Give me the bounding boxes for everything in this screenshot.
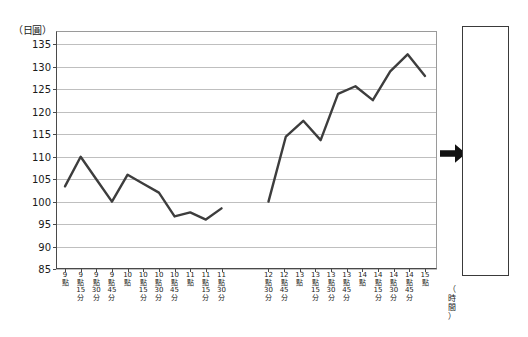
x-tick-label-segment: 分 <box>167 295 183 303</box>
x-tick-label-segment: 分 <box>401 295 417 303</box>
x-tick-label: 12點45分 <box>276 272 292 302</box>
gridline <box>56 269 437 270</box>
x-tick-label-segment <box>417 295 433 303</box>
y-tick-label: 95 <box>38 219 51 230</box>
x-tick-label: 13點45分 <box>339 272 355 302</box>
x-axis-unit-label: （時間） <box>444 285 460 321</box>
x-tick-label: 13點15分 <box>307 272 323 302</box>
x-tick-label: 11點15分 <box>198 272 214 302</box>
chart-figure: （日圓） 859095100105110115120125130135 9點 9… <box>0 0 528 337</box>
line-series-afternoon <box>268 54 425 201</box>
x-axis-unit-segment: ） <box>444 312 460 321</box>
x-tick-label: 10點 <box>120 272 136 302</box>
plot-area: 859095100105110115120125130135 <box>56 31 437 269</box>
x-tick-label: 13點30分 <box>323 272 339 302</box>
x-axis-unit-segment: （ <box>444 285 460 294</box>
x-tick-label-segment: 分 <box>135 295 151 303</box>
x-tick-label: 9點30分 <box>88 272 104 302</box>
x-axis-unit-segment: 間 <box>444 303 460 312</box>
y-tick-label: 110 <box>32 151 51 162</box>
x-tick-label-segment: 分 <box>104 295 120 303</box>
x-tick-label: 14點15分 <box>370 272 386 302</box>
answer-box[interactable] <box>462 26 509 276</box>
x-tick-label: 9點15分 <box>73 272 89 302</box>
x-tick-label-segment: 分 <box>198 295 214 303</box>
x-tick-label: 11點30分 <box>214 272 230 302</box>
y-tick-mark <box>53 269 56 270</box>
x-tick-label-segment: 分 <box>260 295 276 303</box>
x-tick-label: 14點45分 <box>401 272 417 302</box>
y-tick-label: 85 <box>38 264 51 275</box>
x-axis-unit-segment: 時 <box>444 294 460 303</box>
x-tick-label-segment: 分 <box>386 295 402 303</box>
x-tick-label: 10點45分 <box>167 272 183 302</box>
x-tick-label-segment <box>120 295 136 303</box>
y-tick-label: 135 <box>32 39 51 50</box>
x-tick-label-segment <box>292 295 308 303</box>
y-tick-label: 115 <box>32 129 51 140</box>
x-tick-label: 14點30分 <box>386 272 402 302</box>
x-tick-label-segment: 分 <box>307 295 323 303</box>
x-tick-label-segment: 分 <box>214 295 230 303</box>
y-tick-label: 125 <box>32 84 51 95</box>
x-tick-label-segment: 分 <box>323 295 339 303</box>
x-tick-label: 9點45分 <box>104 272 120 302</box>
y-tick-label: 105 <box>32 174 51 185</box>
x-tick-label: 12點30分 <box>260 272 276 302</box>
x-tick-label-segment <box>57 295 73 303</box>
x-tick-label-segment: 分 <box>73 295 89 303</box>
x-tick-label-segment: 分 <box>88 295 104 303</box>
x-tick-label-segment: 分 <box>276 295 292 303</box>
y-axis-unit-label: （日圓） <box>13 22 51 37</box>
x-tick-label: 14點 <box>354 272 370 302</box>
x-tick-label-segment <box>182 295 198 303</box>
x-tick-label: 9點 <box>57 272 73 302</box>
y-tick-label: 120 <box>32 106 51 117</box>
x-tick-label: 11點 <box>182 272 198 302</box>
x-tick-label: 15點 <box>417 272 433 302</box>
x-tick-label-segment: 分 <box>370 295 386 303</box>
x-tick-label: 10點30分 <box>151 272 167 302</box>
x-tick-label: 13點 <box>292 272 308 302</box>
x-tick-label: 10點15分 <box>135 272 151 302</box>
x-tick-label-segment <box>354 295 370 303</box>
line-series-morning <box>65 157 222 220</box>
x-axis-tick-labels: 9點 9點15分9點30分9點45分10點 10點15分10點30分10點45分… <box>56 272 437 332</box>
y-tick-label: 130 <box>32 61 51 72</box>
line-series-svg <box>56 31 437 269</box>
y-tick-label: 100 <box>32 196 51 207</box>
x-tick-label-segment: 分 <box>339 295 355 303</box>
x-tick-label-segment: 分 <box>151 295 167 303</box>
y-tick-label: 90 <box>38 241 51 252</box>
